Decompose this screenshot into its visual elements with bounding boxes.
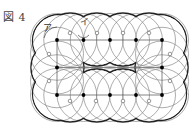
grid-lines <box>57 40 162 95</box>
small-circle-marker <box>147 99 151 103</box>
lattice-dot <box>160 66 164 70</box>
lattice-dot <box>55 66 59 70</box>
lattice-dot <box>82 93 86 97</box>
lattice-dot <box>134 93 138 97</box>
lattice-dot <box>160 93 164 97</box>
marker-a: ア <box>43 23 52 33</box>
circle-lattice-diagram: ア イ <box>0 0 189 125</box>
lattice-dot <box>55 38 59 42</box>
lattice-dot <box>82 38 86 42</box>
small-circle-marker <box>168 52 172 56</box>
lattice-dot <box>108 93 112 97</box>
lattice-dot <box>55 93 59 97</box>
small-circle-marker <box>121 31 125 35</box>
small-circle-marker <box>168 79 172 83</box>
marker-b: イ <box>80 17 89 27</box>
lattice-dot <box>108 38 112 42</box>
small-circle-marker <box>47 52 51 56</box>
small-circle-marker <box>95 31 99 35</box>
small-circle-marker <box>94 99 98 103</box>
small-circle-marker <box>68 99 72 103</box>
small-circle-marker <box>47 79 51 83</box>
lattice-dot <box>134 38 138 42</box>
small-circle-marker <box>147 31 151 35</box>
lattice-dot <box>160 38 164 42</box>
small-circle-marker <box>121 99 125 103</box>
small-circle-marker <box>68 31 72 35</box>
